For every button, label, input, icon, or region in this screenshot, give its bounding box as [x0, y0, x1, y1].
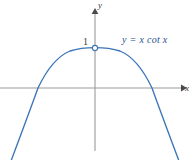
function-graph-figure: y x 1 y = x cot x — [0, 0, 192, 160]
x-axis-label: x — [185, 84, 189, 93]
plot-canvas — [0, 0, 192, 160]
curve-equation-label: y = x cot x — [122, 35, 168, 45]
y-axis-label: y — [98, 1, 102, 10]
open-circle-marker — [92, 45, 97, 50]
y-tick-label-one: 1 — [83, 37, 88, 47]
